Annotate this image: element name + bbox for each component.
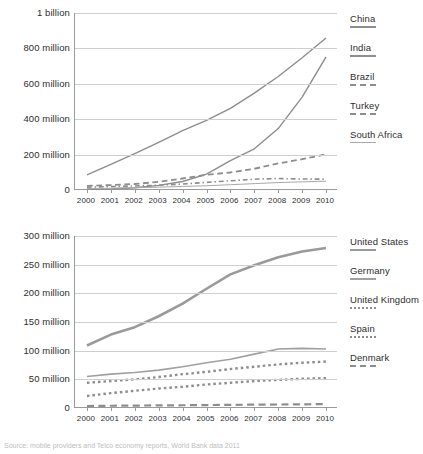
x-tick-label: 2001 [101, 196, 119, 206]
y-tick-label: 100 million [23, 346, 70, 356]
y-tick-label: 300 million [23, 231, 70, 241]
x-tick-label: 2003 [149, 414, 167, 424]
series-line [87, 404, 326, 406]
y-tick-label: 150 million [23, 317, 70, 327]
x-tick-mark [302, 189, 303, 193]
legend-label: India [350, 42, 423, 53]
y-axis-labels-top: 0200 million400 million600 million800 mi… [0, 0, 70, 222]
x-tick-label: 2006 [220, 196, 238, 206]
x-tick-mark [278, 407, 279, 411]
chart-emerging-markets: 0200 million400 million600 million800 mi… [0, 0, 418, 222]
grid-line [75, 119, 337, 120]
x-axis-labels-bottom: 2000200120022003200420052006200720082009… [74, 414, 337, 428]
x-tick-label: 2007 [244, 414, 262, 424]
legend-item[interactable]: United States [350, 236, 423, 251]
y-tick-label: 0 [65, 185, 70, 195]
x-tick-label: 2008 [268, 196, 286, 206]
grid-line [75, 155, 337, 156]
y-tick-label: 1 billion [37, 8, 70, 18]
chart-developed-markets: 050 million100 million150 million200 mil… [0, 228, 418, 438]
x-tick-mark [230, 407, 231, 411]
legend-top: ChinaIndiaBrazilTurkeySouth Africa [350, 13, 423, 158]
series-line [87, 378, 326, 396]
series-line [87, 57, 326, 189]
x-axis-labels-top: 2000200120022003200420052006200720082009… [74, 196, 337, 210]
legend-item[interactable]: Brazil [350, 71, 423, 86]
grid-line [75, 293, 337, 294]
legend-label: Germany [350, 265, 423, 276]
x-tick-mark [135, 407, 136, 411]
x-tick-label: 2000 [77, 414, 95, 424]
legend-item[interactable]: Denmark [350, 352, 423, 367]
x-tick-mark [135, 189, 136, 193]
legend-label: Spain [350, 323, 423, 334]
grid-line [75, 48, 337, 49]
legend-swatch-solid-icon [350, 26, 376, 28]
grid-line [75, 84, 337, 85]
x-tick-label: 2008 [268, 414, 286, 424]
legend-swatch-solid-thick-icon [350, 249, 376, 251]
y-tick-label: 800 million [23, 43, 70, 53]
legend-item[interactable]: South Africa [350, 129, 423, 143]
x-tick-mark [87, 407, 88, 411]
legend-swatch-dotted-icon [350, 307, 376, 309]
legend-item[interactable]: Turkey [350, 100, 423, 115]
x-tick-mark [278, 189, 279, 193]
x-tick-mark [326, 407, 327, 411]
x-tick-label: 2010 [316, 196, 334, 206]
x-tick-mark [111, 407, 112, 411]
plot-area-top [74, 13, 337, 190]
legend-item[interactable]: India [350, 42, 423, 57]
x-tick-label: 2009 [292, 414, 310, 424]
grid-line [75, 13, 337, 14]
x-tick-mark [254, 407, 255, 411]
legend-label: China [350, 13, 423, 24]
legend-label: South Africa [350, 129, 423, 140]
legend-swatch-solid-thin-icon [350, 142, 376, 143]
x-tick-mark [254, 189, 255, 193]
x-tick-label: 2007 [244, 196, 262, 206]
grid-line [75, 322, 337, 323]
series-layer-top [75, 13, 338, 190]
x-tick-label: 2001 [101, 414, 119, 424]
grid-line [75, 236, 337, 237]
x-tick-label: 2000 [77, 196, 95, 206]
x-tick-mark [111, 189, 112, 193]
legend-label: Turkey [350, 100, 423, 111]
x-tick-label: 2003 [149, 196, 167, 206]
y-tick-label: 200 million [23, 288, 70, 298]
x-tick-label: 2004 [172, 196, 190, 206]
x-tick-mark [159, 189, 160, 193]
legend-bottom: United StatesGermanyUnited KingdomSpainD… [350, 236, 423, 381]
x-tick-mark [87, 189, 88, 193]
legend-label: Denmark [350, 352, 423, 363]
x-tick-mark [207, 189, 208, 193]
grid-line [75, 351, 337, 352]
plot-area-bottom [74, 236, 337, 408]
source-caption: Source: mobile providers and Telco econo… [4, 441, 240, 450]
grid-line [75, 265, 337, 266]
series-line [87, 181, 326, 188]
legend-item[interactable]: Spain [350, 323, 423, 338]
y-tick-label: 50 million [29, 374, 70, 384]
legend-swatch-dashed-icon [350, 365, 376, 367]
grid-line [75, 379, 337, 380]
x-tick-label: 2006 [220, 414, 238, 424]
legend-label: United States [350, 236, 423, 247]
legend-label: United Kingdom [350, 294, 423, 305]
x-tick-label: 2009 [292, 196, 310, 206]
y-tick-label: 0 [65, 403, 70, 413]
x-tick-label: 2005 [196, 196, 214, 206]
x-tick-mark [183, 407, 184, 411]
x-tick-label: 2010 [316, 414, 334, 424]
legend-swatch-solid-icon [350, 55, 376, 57]
legend-item[interactable]: Germany [350, 265, 423, 280]
legend-swatch-solid-icon [350, 278, 376, 280]
legend-item[interactable]: China [350, 13, 423, 28]
y-tick-label: 250 million [23, 260, 70, 270]
y-tick-label: 400 million [23, 114, 70, 124]
x-tick-mark [326, 189, 327, 193]
legend-item[interactable]: United Kingdom [350, 294, 423, 309]
legend-label: Brazil [350, 71, 423, 82]
x-tick-mark [302, 407, 303, 411]
